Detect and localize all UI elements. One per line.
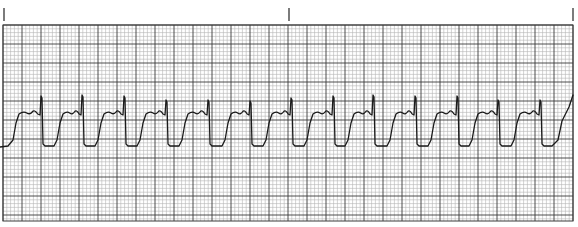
time-markers <box>4 8 573 21</box>
major-grid-lines <box>3 25 573 221</box>
ecg-rhythm-strip <box>0 0 578 227</box>
